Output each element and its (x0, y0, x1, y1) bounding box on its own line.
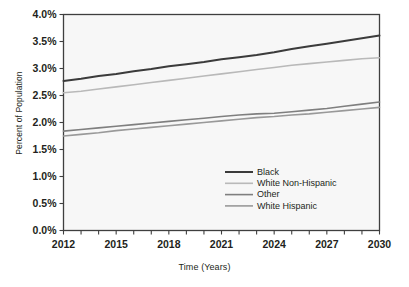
y-tick-label: 1.0% (33, 170, 58, 182)
x-tick-label: 2018 (157, 238, 181, 250)
x-tick-label: 2027 (315, 238, 339, 250)
legend-label-white-hispanic: White Hispanic (257, 201, 318, 211)
y-axis-ticks: 0.0%0.5%1.0%1.5%2.0%2.5%3.0%3.5%4.0% (33, 8, 64, 236)
legend-label-other: Other (257, 189, 280, 199)
y-tick-label: 2.0% (33, 116, 58, 128)
y-tick-label: 4.0% (33, 8, 58, 20)
x-tick-label: 2012 (52, 238, 76, 250)
legend-label-white-non-hispanic: White Non-Hispanic (257, 178, 337, 188)
y-tick-label: 0.0% (33, 224, 58, 236)
x-tick-label: 2021 (210, 238, 234, 250)
y-tick-label: 0.5% (33, 197, 58, 209)
line-chart-plot: 0.0%0.5%1.0%1.5%2.0%2.5%3.0%3.5%4.0% 201… (0, 0, 409, 287)
x-tick-label: 2024 (262, 238, 286, 250)
legend-label-black: Black (257, 167, 280, 177)
x-tick-label: 2015 (104, 238, 128, 250)
y-tick-label: 2.5% (33, 89, 58, 101)
y-tick-label: 3.0% (33, 62, 58, 74)
y-tick-label: 1.5% (33, 143, 58, 155)
chart-figure: Percent of Population Time (Years) 0.0%0… (0, 0, 409, 287)
x-axis-ticks: 2012201520182021202420272030 (52, 231, 392, 250)
plot-area-background (64, 15, 380, 231)
y-tick-label: 3.5% (33, 35, 58, 47)
x-tick-label: 2030 (368, 238, 392, 250)
